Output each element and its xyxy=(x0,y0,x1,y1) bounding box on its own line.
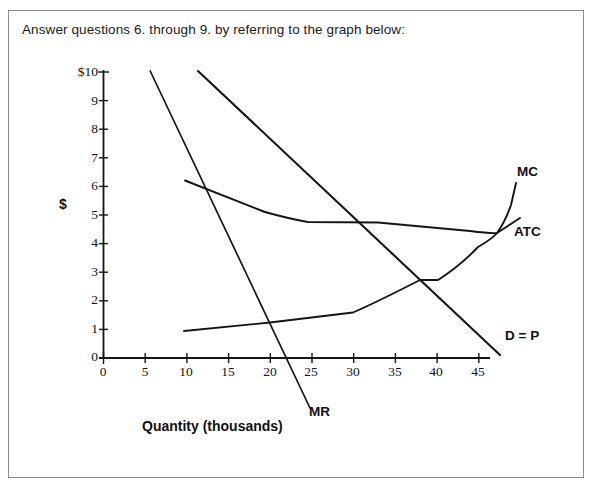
economics-graph xyxy=(0,0,592,489)
mc-curve xyxy=(184,183,516,331)
atc-curve xyxy=(185,181,520,234)
x-axis xyxy=(99,352,490,364)
page-root: Answer questions 6. through 9. by referr… xyxy=(0,0,592,489)
y-axis xyxy=(98,70,109,359)
